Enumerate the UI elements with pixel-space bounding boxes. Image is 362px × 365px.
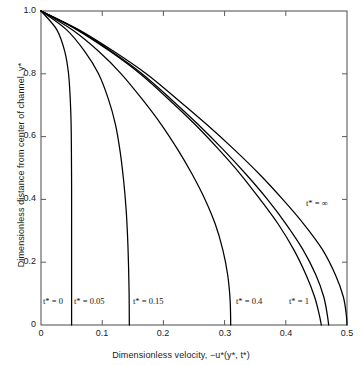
curve-label-t04: t* = 0.4: [236, 296, 262, 306]
xtick-label-5: 0.5: [327, 328, 362, 338]
curve-label-t0: t* = 0: [43, 296, 63, 306]
y-axis-title: Dimensionless distance from center of ch…: [16, 63, 26, 268]
plot-frame: [41, 11, 347, 325]
ytick-label-5: 1.0: [2, 5, 36, 15]
xtick-label-2: 0.2: [143, 328, 183, 338]
ytick-label-0: 0: [2, 319, 36, 329]
curve-label-t015: t* = 0.15: [133, 296, 164, 306]
curve-label-t1: t* = 1: [289, 296, 309, 306]
xtick-label-4: 0.4: [266, 328, 306, 338]
xtick-label-3: 0.3: [205, 328, 245, 338]
curve-label-t005: t* = 0.05: [74, 296, 105, 306]
y-axis-title-wrapper: Dimensionless distance from center of ch…: [10, 15, 28, 315]
velocity-profile-plot: [0, 0, 362, 365]
xtick-label-1: 0.1: [82, 328, 122, 338]
curve-label-tinf: t* = ∞: [306, 198, 328, 208]
xtick-label-0: 0: [21, 328, 61, 338]
chart-figure: 0 0.1 0.2 0.3 0.4 0.5 0 0.2 0.4 0.6 0.8 …: [0, 0, 362, 365]
x-axis-title: Dimensionless velocity, −u*(y*, t*): [0, 350, 362, 360]
